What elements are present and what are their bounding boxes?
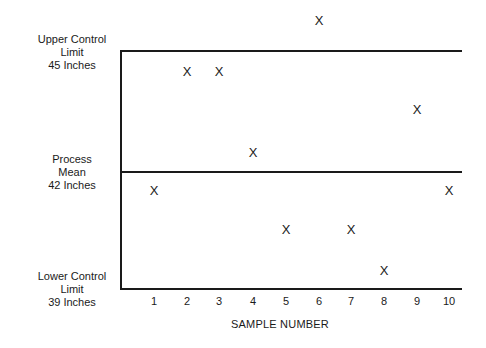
data-point-6: X: [312, 14, 326, 28]
ucl-label-line-3: 45 Inches: [12, 59, 132, 72]
x-tick-8: 8: [374, 295, 394, 308]
x-tick-10: 10: [439, 295, 459, 308]
x-tick-3: 3: [209, 295, 229, 308]
ucl-label: Upper Control Limit 45 Inches: [12, 33, 132, 72]
data-point-3: X: [212, 65, 226, 79]
mean-label-line-3: 42 Inches: [12, 179, 132, 192]
control-chart: Upper Control Limit 45 Inches Process Me…: [0, 0, 486, 348]
lcl-label-line-1: Lower Control: [12, 270, 132, 283]
process-mean-line: [120, 171, 462, 173]
x-axis-title: SAMPLE NUMBER: [180, 318, 380, 331]
x-tick-5: 5: [276, 295, 296, 308]
data-point-8: X: [377, 264, 391, 278]
x-tick-1: 1: [144, 295, 164, 308]
lcl-label-line-2: Limit: [12, 283, 132, 296]
lcl-label: Lower Control Limit 39 Inches: [12, 270, 132, 309]
x-tick-7: 7: [341, 295, 361, 308]
data-point-1: X: [147, 184, 161, 198]
x-tick-2: 2: [177, 295, 197, 308]
ucl-label-line-1: Upper Control: [12, 33, 132, 46]
x-axis-line: [120, 288, 462, 290]
mean-label-line-2: Mean: [12, 166, 132, 179]
x-tick-9: 9: [407, 295, 427, 308]
ucl-label-line-2: Limit: [12, 46, 132, 59]
data-point-7: X: [344, 223, 358, 237]
data-point-2: X: [180, 65, 194, 79]
data-point-4: X: [246, 146, 260, 160]
data-point-10: X: [442, 184, 456, 198]
upper-control-limit-line: [120, 50, 462, 52]
data-point-5: X: [279, 223, 293, 237]
x-tick-6: 6: [309, 295, 329, 308]
mean-label-line-1: Process: [12, 153, 132, 166]
y-axis-line: [120, 50, 122, 290]
data-point-9: X: [410, 103, 424, 117]
lcl-label-line-3: 39 Inches: [12, 296, 132, 309]
mean-label: Process Mean 42 Inches: [12, 153, 132, 192]
x-tick-4: 4: [243, 295, 263, 308]
